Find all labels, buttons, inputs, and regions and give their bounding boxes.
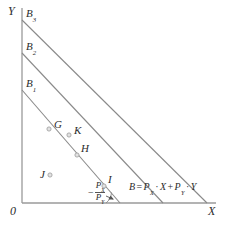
equation-var-x: X bbox=[160, 181, 167, 192]
point-label-g: G bbox=[54, 119, 62, 130]
budget-line-label-b2-sub: 2 bbox=[33, 49, 36, 56]
equation-var-y: Y bbox=[191, 181, 197, 192]
x-axis-label: X bbox=[208, 205, 215, 217]
budget-line-label-b3: B3 bbox=[26, 8, 36, 22]
point-label-k: K bbox=[74, 125, 81, 136]
equation-plus: + bbox=[167, 181, 175, 192]
figure-canvas bbox=[0, 0, 231, 236]
slope-denominator: PY bbox=[95, 193, 106, 204]
budget-line-label-b3-sub: 3 bbox=[33, 16, 36, 23]
point-marker-g bbox=[47, 127, 51, 131]
budget-equation: B=PX·X+PY·Y bbox=[129, 182, 197, 194]
point-marker-h bbox=[75, 153, 79, 157]
slope-numerator-sub: X bbox=[101, 187, 104, 193]
equation-price-y-sub: Y bbox=[181, 189, 185, 196]
origin-label: 0 bbox=[10, 205, 16, 217]
equation-lhs: B bbox=[129, 181, 136, 192]
slope-annotation: − PX PY bbox=[88, 181, 105, 205]
point-marker-k bbox=[67, 133, 71, 137]
equation-equals: = bbox=[136, 181, 144, 192]
budget-line-label-b1: B1 bbox=[26, 78, 36, 92]
equation-price-x-sub: X bbox=[150, 189, 154, 196]
point-label-h: H bbox=[81, 143, 89, 154]
point-label-j: J bbox=[40, 169, 45, 180]
budget-line-label-b1-base: B bbox=[26, 77, 33, 89]
y-axis-label: Y bbox=[8, 5, 15, 17]
budget-line-label-b2-base: B bbox=[26, 40, 33, 52]
slope-denominator-sub: Y bbox=[101, 199, 104, 205]
budget-lines-figure: Y X 0 B3 B2 B1 G K H I J B=PX·X+PY·Y − P… bbox=[0, 0, 231, 236]
budget-line-label-b3-base: B bbox=[26, 7, 33, 19]
slope-fraction: PX PY bbox=[95, 181, 106, 205]
slope-minus-sign: − bbox=[88, 188, 94, 198]
budget-line-label-b1-sub: 1 bbox=[33, 86, 36, 93]
budget-line-label-b2: B2 bbox=[26, 41, 36, 55]
point-label-i: I bbox=[108, 174, 112, 185]
point-marker-j bbox=[48, 173, 52, 177]
